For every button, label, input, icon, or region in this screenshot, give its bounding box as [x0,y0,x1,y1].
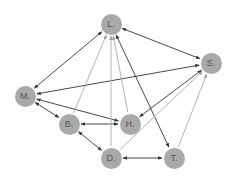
node-t-label: T. [170,153,177,163]
edge-s-h [140,70,202,117]
node-l[interactable]: L. [101,14,122,35]
edge-b-d [78,132,101,151]
node-t[interactable]: T. [164,148,185,169]
edge-m-b [35,102,59,117]
node-b-label: B. [65,119,74,129]
edge-d-s [120,71,203,149]
node-m[interactable]: M. [15,86,36,107]
edges-layer [34,28,206,158]
edge-l-m [34,32,102,89]
node-s[interactable]: S. [201,53,222,74]
edge-t-s [178,74,206,147]
node-b[interactable]: B. [59,114,80,135]
node-m-label: M. [20,91,30,101]
node-d-label: D. [107,153,116,163]
edge-l-s [122,28,200,58]
edge-s-m [37,65,199,94]
node-l-label: L. [107,19,115,29]
node-d[interactable]: D. [101,148,122,169]
edge-h-l [113,36,128,112]
node-h-label: H. [126,119,135,129]
edge-b-l [74,35,107,113]
node-h[interactable]: H. [120,114,141,135]
node-s-label: S. [207,58,216,68]
